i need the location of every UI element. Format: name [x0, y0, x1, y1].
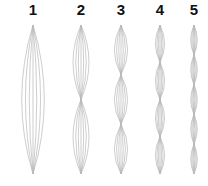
mode-1-wave	[22, 25, 45, 174]
standing-wave-diagram	[0, 0, 208, 186]
mode-5-wave	[191, 25, 198, 174]
mode-3-wave	[114, 25, 127, 174]
mode-2-wave	[73, 25, 89, 174]
mode-4-wave	[155, 25, 164, 174]
